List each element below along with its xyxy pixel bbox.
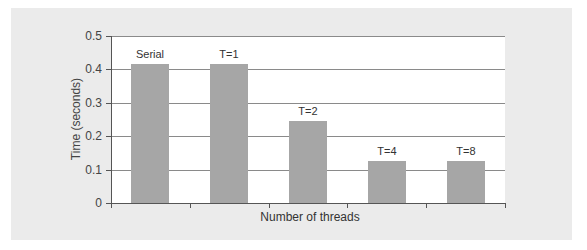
bar-t1 <box>210 64 248 203</box>
x-tick-mark <box>426 203 427 208</box>
gridline <box>111 103 505 104</box>
y-axis-line <box>111 36 112 204</box>
y-tick-label: 0.5 <box>70 29 102 43</box>
x-tick-mark <box>190 203 191 208</box>
bar-t8 <box>447 161 485 203</box>
bar-label: T=2 <box>273 105 343 118</box>
x-axis-line <box>111 203 506 204</box>
bar-label: T=1 <box>194 48 264 61</box>
bar-t4 <box>368 161 406 203</box>
y-tick-label: 0 <box>70 196 102 210</box>
bar-label: Serial <box>115 48 185 61</box>
bar-label: T=8 <box>431 145 501 158</box>
bar-t2 <box>289 121 327 203</box>
gridline <box>111 36 505 37</box>
bar-serial <box>131 64 169 203</box>
x-axis-title: Number of threads <box>220 210 400 224</box>
bar-label: T=4 <box>352 145 422 158</box>
gridline <box>111 69 505 70</box>
x-tick-mark <box>347 203 348 208</box>
x-tick-mark <box>111 203 112 208</box>
x-tick-mark <box>269 203 270 208</box>
y-axis-title: Time (seconds) <box>69 59 83 179</box>
x-tick-mark <box>505 203 506 208</box>
